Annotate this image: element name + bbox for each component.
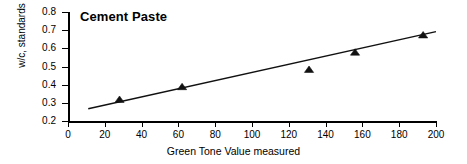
cement-paste-chart: Cement Paste 0.20.30.40.50.60.70.8 02040… [0, 0, 467, 164]
trend-line [88, 32, 436, 109]
plot-overlay [0, 0, 467, 164]
data-point-marker [115, 96, 124, 102]
data-point-marker [304, 66, 313, 72]
